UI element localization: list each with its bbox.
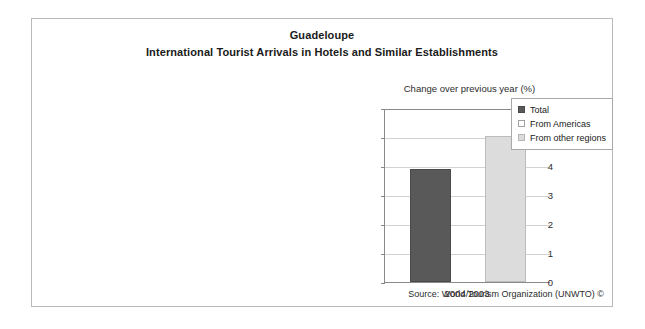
axis-note: Change over previous year (%) xyxy=(362,83,577,94)
legend-label-from-americas: From Americas xyxy=(530,119,591,129)
legend-item-total[interactable]: Total xyxy=(518,103,607,116)
y-axis-tick-label: 4 xyxy=(527,162,553,172)
y-axis-tick-mark xyxy=(381,254,385,255)
legend-item-from-other-regions[interactable]: From other regions xyxy=(518,131,607,144)
legend-label-from-other-regions: From other regions xyxy=(530,133,606,143)
legend-swatch-total-icon xyxy=(518,106,525,113)
bar-from-other-regions[interactable] xyxy=(485,136,526,283)
legend-swatch-from-americas-icon xyxy=(518,120,525,127)
y-axis-tick-mark xyxy=(381,138,385,139)
figure-frame: Guadeloupe International Tourist Arrival… xyxy=(31,18,613,307)
source-note: Source: World Tourism Organization (UNWT… xyxy=(408,289,604,299)
y-axis-tick-label: 3 xyxy=(527,191,553,201)
page-title: Guadeloupe xyxy=(32,28,612,42)
y-axis-tick-label: 0 xyxy=(527,278,553,288)
y-axis-tick-label: 2 xyxy=(527,220,553,230)
y-axis-tick-mark xyxy=(381,225,385,226)
y-axis-tick-mark xyxy=(381,109,385,110)
y-axis-tick-mark xyxy=(381,196,385,197)
legend-item-from-americas[interactable]: From Americas xyxy=(518,117,607,130)
title-block: Guadeloupe International Tourist Arrival… xyxy=(32,28,612,60)
y-axis-tick-label: 1 xyxy=(527,249,553,259)
bar-total[interactable] xyxy=(410,169,451,282)
y-axis-tick-mark xyxy=(381,283,385,284)
y-axis-tick-mark xyxy=(381,167,385,168)
chart-subtitle: International Tourist Arrivals in Hotels… xyxy=(32,45,612,60)
legend-swatch-from-other-regions-icon xyxy=(518,134,525,141)
legend-label-total: Total xyxy=(530,105,549,115)
legend: Total From Americas From other regions xyxy=(511,98,613,150)
